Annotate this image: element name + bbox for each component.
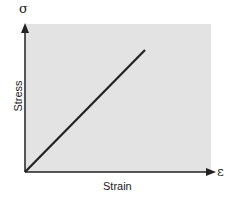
epsilon-symbol: ε — [217, 164, 224, 179]
linear-elastic-line — [25, 50, 145, 172]
y-axis-arrow-icon — [21, 23, 29, 33]
x-axis-arrow-icon — [206, 168, 216, 176]
sigma-symbol: σ — [19, 1, 28, 16]
y-axis-label: Stress — [12, 76, 24, 116]
stress-strain-diagram — [0, 0, 238, 200]
x-axis-label: Strain — [103, 180, 132, 192]
